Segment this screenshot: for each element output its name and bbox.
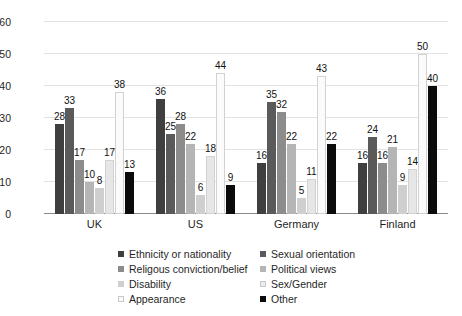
bar [428,86,437,214]
legend-item[interactable]: Political views [260,263,408,275]
legend-item[interactable]: Sexual orientation [260,248,408,260]
bar-value-label: 22 [286,132,297,142]
plot-area: 2833171081738133625282261844916353222511… [44,22,448,214]
bar-value-label: 6 [198,183,204,193]
bar [408,169,417,214]
bar-slot: 44 [216,22,225,214]
bar-slot: 33 [65,22,74,214]
bar-value-label: 10 [84,170,95,180]
bar-value-label: 16 [357,151,368,161]
legend-item[interactable]: Disability [118,278,260,290]
bar-value-label: 22 [326,132,337,142]
bar [327,144,336,214]
legend-item[interactable]: Other [260,293,408,305]
bar-value-label: 22 [185,132,196,142]
bar [368,137,377,214]
bar [206,156,215,214]
legend-swatch [118,266,124,272]
bar-slot: 5 [297,22,306,214]
bar-value-label: 44 [215,61,226,71]
bar-value-label: 8 [97,176,103,186]
legend-item[interactable]: Religous conviction/belief [118,263,260,275]
bar [287,144,296,214]
bar-slot: 8 [95,22,104,214]
bar-slot: 22 [186,22,195,214]
legend-swatch [118,281,124,287]
bar-slot: 25 [166,22,175,214]
bar-value-label: 16 [256,151,267,161]
bar-value-label: 50 [417,42,428,52]
bar [216,73,225,214]
bar-value-label: 11 [306,167,316,177]
bar-slot: 11 [307,22,316,214]
y-axis-tick-label: 20 [0,144,11,156]
bar-value-label: 28 [54,112,65,122]
legend-label: Sexual orientation [271,248,355,260]
bar-slot: 35 [267,22,276,214]
bar-value-label: 43 [316,64,327,74]
bar-slot: 21 [388,22,397,214]
bar [95,188,104,214]
legend-label: Sex/Gender [271,278,327,290]
bar-value-label: 14 [407,157,418,167]
bar-slot: 22 [327,22,336,214]
bar [115,92,124,214]
legend-swatch [260,266,266,272]
y-axis-tick-label: 30 [0,112,11,124]
bar-value-label: 16 [377,151,388,161]
bar [277,112,286,214]
bar [378,163,387,214]
legend-item[interactable]: Sex/Gender [260,278,408,290]
bar [398,185,407,214]
bar-value-label: 5 [299,186,305,196]
legend-swatch [118,251,124,257]
bar-slot: 28 [55,22,64,214]
x-axis-label-germany: Germany [246,218,347,236]
bar-slot: 9 [226,22,235,214]
y-axis-tick-label: 50 [0,48,11,60]
bar-value-label: 25 [165,122,176,132]
bar-slot: 16 [257,22,266,214]
legend-swatch [260,281,266,287]
bar-slot: 17 [75,22,84,214]
bar [125,172,134,214]
legend-swatch [260,296,266,302]
legend-label: Appearance [129,293,186,305]
y-axis-tick-label: 60 [0,16,11,28]
bar-value-label: 18 [205,144,216,154]
bar-slot: 43 [317,22,326,214]
bar [196,195,205,214]
legend-item[interactable]: Ethnicity or nationality [118,248,260,260]
bar [186,144,195,214]
bar-slot: 24 [368,22,377,214]
bar-slot: 28 [176,22,185,214]
bar-slot: 50 [418,22,427,214]
legend-label: Religous conviction/belief [129,263,247,275]
bar-slot: 16 [358,22,367,214]
bar-slot: 17 [105,22,114,214]
legend-item[interactable]: Appearance [118,293,260,305]
bar [75,160,84,214]
bar [358,163,367,214]
x-axis-category-labels: UKUSGermanyFinland [44,218,448,236]
bar-value-label: 9 [228,173,234,183]
bar [267,102,276,214]
legend-swatch [118,296,124,302]
bar [65,108,74,214]
bar [418,54,427,214]
y-axis-tick-label: 10 [0,176,11,188]
legend-label: Ethnicity or nationality [129,248,231,260]
bar-value-label: 36 [155,87,166,97]
bar-chart: 0102030405060 28331710817381336252822618… [0,0,462,316]
bar [176,124,185,214]
bar-group: 283317108173813 [44,22,145,214]
bar [226,185,235,214]
bar-slot: 9 [398,22,407,214]
bar-value-label: 17 [74,148,85,158]
bar [156,99,165,214]
legend-swatch [260,251,266,257]
bar [166,134,175,214]
bar-value-label: 17 [104,148,115,158]
bar-value-label: 38 [114,80,125,90]
y-axis-tick-label: 0 [0,208,11,220]
